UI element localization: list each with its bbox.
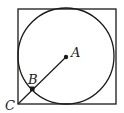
point-A [64, 55, 68, 59]
label-B: B [27, 72, 38, 87]
point-B [30, 87, 35, 92]
label-A: A [70, 45, 80, 60]
geometry-diagram: A B C [0, 0, 124, 113]
label-C: C [5, 98, 15, 113]
